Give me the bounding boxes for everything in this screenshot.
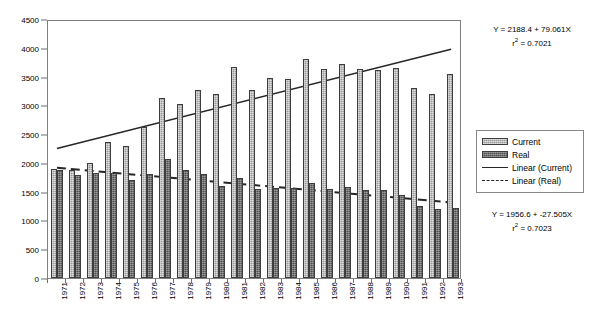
x-axis-tick-label: 1986 xyxy=(330,282,339,300)
x-axis-tick-label: 1980 xyxy=(222,282,231,300)
r2-value: = 0.7023 xyxy=(520,224,551,233)
bar-current xyxy=(447,74,452,278)
x-axis-tick-label: 1987 xyxy=(348,282,357,300)
plot-area xyxy=(47,20,461,279)
y-axis-tick-label: 0 xyxy=(35,275,39,284)
real-equation-text: Y = 1956.6 + -27.505X xyxy=(477,209,587,220)
x-axis-tick-label: 1977 xyxy=(168,282,177,300)
legend-key xyxy=(482,148,508,161)
y-axis-tick-label: 3000 xyxy=(21,102,39,111)
bar-current xyxy=(303,59,308,278)
bar-real xyxy=(363,190,368,278)
legend-line-real xyxy=(482,180,508,181)
x-axis-tick-mark xyxy=(407,279,408,283)
chart-container: 050010001500200025003000350040004500 197… xyxy=(0,0,591,314)
y-axis-tick-label: 2500 xyxy=(21,131,39,140)
bar-current xyxy=(159,98,164,278)
y-axis-tick-label: 1500 xyxy=(21,188,39,197)
x-axis-tick-mark xyxy=(317,279,318,283)
bar-real xyxy=(453,208,458,278)
legend-line-current xyxy=(482,167,508,168)
x-axis-tick-mark xyxy=(461,279,462,283)
x-axis-tick-mark xyxy=(137,279,138,283)
x-axis-tick-mark xyxy=(65,279,66,283)
x-axis-tick-mark xyxy=(119,279,120,283)
current-equation-text: Y = 2188.4 + 79.061X xyxy=(477,24,587,35)
y-axis-tick-label: 2000 xyxy=(21,159,39,168)
bar-real xyxy=(417,206,422,278)
r2-value: = 0.7021 xyxy=(520,39,551,48)
bar-current xyxy=(195,90,200,278)
bar-real xyxy=(147,174,152,278)
x-axis-tick-label: 1988 xyxy=(366,282,375,300)
bar-current xyxy=(339,64,344,278)
legend-item: Real xyxy=(482,148,579,161)
r2-exponent: 2 xyxy=(515,222,518,228)
bar-current xyxy=(87,163,92,278)
x-axis-tick-mark xyxy=(209,279,210,283)
bar-real xyxy=(75,175,80,278)
bar-current xyxy=(69,170,74,278)
bar-real xyxy=(201,174,206,278)
legend-item: Current xyxy=(482,135,579,148)
legend-swatch-real xyxy=(482,151,508,158)
x-axis-tick-label: 1974 xyxy=(114,282,123,300)
x-axis-tick-mark xyxy=(299,279,300,283)
x-axis-tick-mark xyxy=(281,279,282,283)
bar-real xyxy=(309,183,314,278)
bar-current xyxy=(411,88,416,279)
bar-real xyxy=(291,188,296,278)
legend-item-label: Linear (Real) xyxy=(512,176,561,186)
current-trend-annotation: Y = 2188.4 + 79.061X r2 = 0.7021 xyxy=(477,24,587,49)
bar-real xyxy=(327,189,332,278)
legend-swatch-current xyxy=(482,138,508,145)
legend-item: Linear (Real) xyxy=(482,174,579,187)
bar-current xyxy=(123,146,128,278)
current-r2-text: r2 = 0.7021 xyxy=(477,35,587,49)
bar-real xyxy=(399,195,404,278)
bar-current xyxy=(231,67,236,278)
legend-item-label: Linear (Current) xyxy=(512,163,572,173)
x-axis-tick-mark xyxy=(371,279,372,283)
bar-real xyxy=(129,180,134,278)
x-axis-tick-label: 1971 xyxy=(60,282,69,300)
y-axis-tick-label: 3500 xyxy=(21,73,39,82)
bar-current xyxy=(141,127,146,278)
real-r2-text: r2 = 0.7023 xyxy=(477,220,587,234)
x-axis-tick-label: 1990 xyxy=(402,282,411,300)
x-axis-tick-mark xyxy=(443,279,444,283)
bar-current xyxy=(321,69,326,279)
x-axis-tick-mark xyxy=(83,279,84,283)
legend: CurrentRealLinear (Current)Linear (Real) xyxy=(476,130,584,193)
legend-item-label: Current xyxy=(512,137,540,147)
legend-key xyxy=(482,161,508,174)
x-axis-tick-label: 1993 xyxy=(456,282,465,300)
x-axis-tick-mark xyxy=(425,279,426,283)
bar-current xyxy=(375,70,380,278)
bar-current xyxy=(393,68,398,278)
x-axis-tick-label: 1978 xyxy=(186,282,195,300)
bar-current xyxy=(285,79,290,278)
legend-item-label: Real xyxy=(512,150,529,160)
x-axis-tick-label: 1982 xyxy=(258,282,267,300)
y-axis-tick-label: 500 xyxy=(26,246,39,255)
x-axis-tick-label: 1976 xyxy=(150,282,159,300)
plot-inner xyxy=(48,21,460,278)
legend-key xyxy=(482,174,508,187)
x-axis: 1971197219731974197519761977197819791980… xyxy=(47,280,461,314)
x-axis-tick-label: 1992 xyxy=(438,282,447,300)
x-axis-tick-label: 1973 xyxy=(96,282,105,300)
x-axis-tick-mark xyxy=(101,279,102,283)
bar-real xyxy=(183,170,188,278)
y-axis-tick-label: 4500 xyxy=(21,16,39,25)
bar-current xyxy=(267,78,272,278)
real-trend-annotation: Y = 1956.6 + -27.505X r2 = 0.7023 xyxy=(477,209,587,234)
x-axis-tick-label: 1981 xyxy=(240,282,249,300)
bar-real xyxy=(93,173,98,278)
bar-real xyxy=(435,209,440,278)
y-axis-tick-label: 4000 xyxy=(21,44,39,53)
bar-current xyxy=(51,169,56,278)
bar-current xyxy=(249,90,254,278)
x-axis-tick-mark xyxy=(389,279,390,283)
bar-real xyxy=(381,190,386,278)
